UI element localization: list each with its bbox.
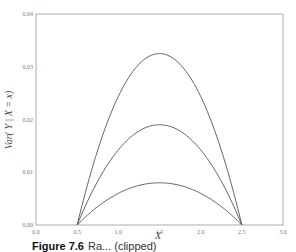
x-tick-label: 0.5 (73, 229, 81, 235)
y-tick-label: 0.03 (23, 64, 34, 70)
y-axis-ticks: 0.000.010.020.030.04 (23, 11, 34, 228)
x-tick-label: 2.5 (238, 229, 246, 235)
x-tick-label: 1.0 (115, 229, 123, 235)
chart: 0.00.51.01.52.02.53.0 0.000.010.020.030.… (0, 0, 296, 252)
y-tick-label: 0.02 (23, 117, 34, 123)
y-axis-label: Var( Y | X = x) (3, 90, 15, 149)
data-series (77, 54, 242, 225)
y-tick-label: 0.04 (23, 11, 34, 17)
y-tick-label: 0.00 (23, 222, 34, 228)
caption-text: Ra... (clipped) (88, 240, 156, 252)
y-tick-label: 0.01 (23, 169, 34, 175)
plot-frame (36, 14, 283, 225)
figure-caption: Figure 7.6Ra... (clipped) (32, 240, 156, 252)
x-tick-label: 0.0 (32, 229, 40, 235)
x-tick-label: 2.0 (197, 229, 205, 235)
series-line-curve-mid (77, 125, 242, 225)
series-line-curve-low (77, 183, 242, 225)
caption-label: Figure 7.6 (32, 240, 84, 252)
x-tick-label: 3.0 (279, 229, 287, 235)
series-line-curve-high (77, 54, 242, 225)
